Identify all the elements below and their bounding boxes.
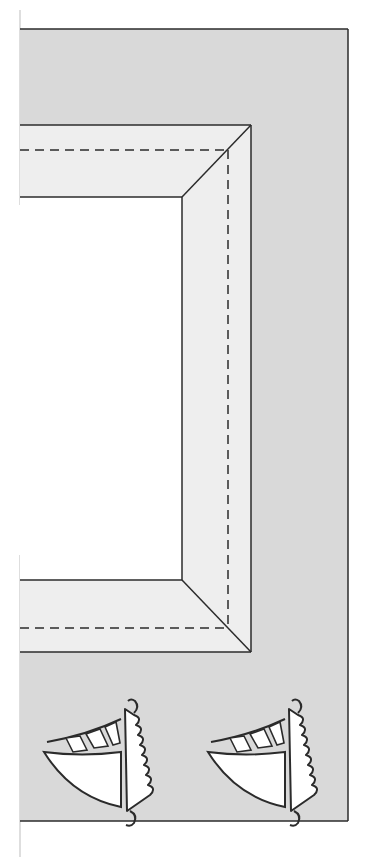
picture-frame xyxy=(20,125,251,652)
template-canvas xyxy=(0,0,370,858)
frame-window xyxy=(20,197,182,580)
